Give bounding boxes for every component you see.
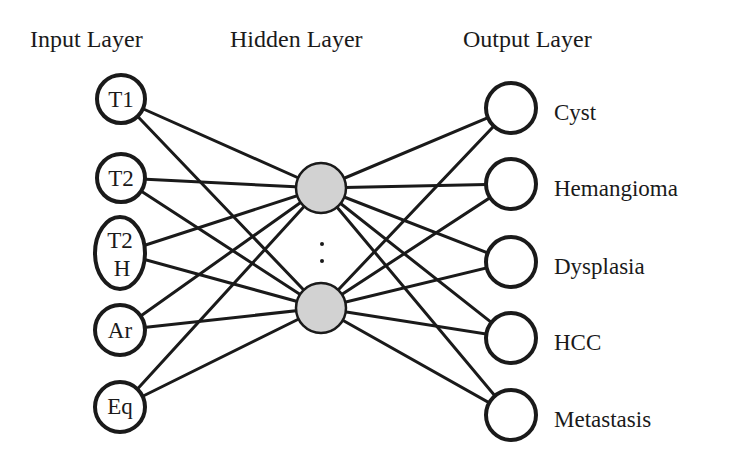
output-label: Cyst <box>554 100 597 125</box>
hidden-layer-title: Hidden Layer <box>230 26 363 52</box>
hidden-node-1 <box>296 163 346 213</box>
ellipsis-dot <box>320 242 324 246</box>
output-node-hemangioma: Hemangioma <box>486 159 678 209</box>
output-node-hcc: HCC <box>486 313 601 363</box>
input-layer-title: Input Layer <box>30 26 143 52</box>
edge-T2H-hn <box>121 253 321 308</box>
output-node-metastasis: Metastasis <box>486 390 651 440</box>
output-node-dysplasia: Dysplasia <box>486 237 645 287</box>
input-node-label-line2: H <box>114 256 131 281</box>
output-label: Dysplasia <box>554 254 645 279</box>
input-layer: T1 T2 T2 H Ar Eq <box>95 75 145 432</box>
input-node-label: Ar <box>108 318 133 343</box>
input-node-Ar: Ar <box>95 305 145 355</box>
input-node-label: Eq <box>107 394 133 419</box>
hidden-layer <box>296 163 346 333</box>
edge-h1-Cyst <box>321 108 511 188</box>
input-node-Eq: Eq <box>95 382 145 432</box>
edge-Eq-hn <box>121 308 321 407</box>
edge-hn-Hemangioma <box>321 184 511 308</box>
ellipsis-dot <box>320 259 324 263</box>
output-node-cyst: Cyst <box>486 83 597 133</box>
input-node-T2H: T2 H <box>95 217 145 289</box>
output-label: Metastasis <box>554 407 651 432</box>
edge-hn-Cyst <box>321 108 511 308</box>
output-label: HCC <box>554 330 601 355</box>
input-node-T1: T1 <box>97 75 145 123</box>
edge-h1-HCC <box>321 188 511 338</box>
edge-h1-Hemangioma <box>321 184 511 188</box>
input-node-label: T1 <box>108 87 134 112</box>
input-node-label-line1: T2 <box>107 228 133 253</box>
edge-T1-h1 <box>121 99 321 188</box>
hidden-node-n <box>296 283 346 333</box>
edge-Ar-h1 <box>121 188 321 330</box>
input-hidden-edges <box>121 99 321 407</box>
edge-Ar-hn <box>121 308 321 330</box>
output-layer: Cyst Hemangioma Dysplasia HCC Metastasis <box>486 83 678 440</box>
input-node-label: T2 <box>108 166 134 191</box>
edge-T2-h1 <box>121 178 321 188</box>
edge-h1-Dysplasia <box>321 188 511 262</box>
neural-network-diagram: Input Layer Hidden Layer Output Layer T1 <box>0 0 741 468</box>
input-node-T2: T2 <box>97 154 145 202</box>
edge-T1-hn <box>121 99 321 308</box>
output-label: Hemangioma <box>554 176 678 201</box>
output-layer-title: Output Layer <box>463 26 592 52</box>
hidden-output-edges <box>321 108 511 415</box>
